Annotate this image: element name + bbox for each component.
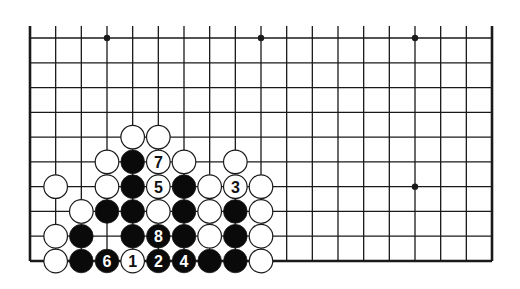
black-stone: 6 — [95, 249, 119, 273]
white-stone: 5 — [147, 175, 171, 199]
white-stone — [70, 200, 94, 224]
white-stone — [224, 150, 248, 174]
white-stone — [95, 150, 119, 174]
white-stone — [249, 200, 273, 224]
stones-layer: 75386124 — [44, 125, 273, 272]
white-stone — [44, 175, 68, 199]
white-stone — [249, 249, 273, 273]
white-stone — [44, 224, 68, 248]
black-stone: 8 — [147, 224, 171, 248]
black-stone — [70, 224, 94, 248]
black-stone — [172, 200, 196, 224]
move-number: 5 — [154, 179, 163, 196]
white-stone — [249, 175, 273, 199]
star-point — [412, 35, 418, 41]
black-stone — [121, 224, 145, 248]
move-number: 2 — [154, 253, 163, 270]
move-number: 3 — [231, 179, 240, 196]
move-number: 7 — [154, 154, 163, 171]
move-number: 8 — [154, 228, 163, 245]
white-stone — [198, 200, 222, 224]
white-stone — [121, 125, 145, 149]
white-stone — [147, 200, 171, 224]
white-stone — [249, 224, 273, 248]
move-number: 6 — [103, 253, 112, 270]
black-stone — [198, 249, 222, 273]
black-stone: 4 — [172, 249, 196, 273]
black-stone — [224, 249, 248, 273]
black-stone: 2 — [147, 249, 171, 273]
star-point — [412, 183, 418, 189]
white-stone — [95, 175, 119, 199]
move-number: 4 — [180, 253, 189, 270]
star-point — [104, 35, 110, 41]
black-stone — [70, 249, 94, 273]
white-stone — [147, 125, 171, 149]
white-stone — [198, 175, 222, 199]
white-stone — [198, 224, 222, 248]
move-number: 1 — [128, 253, 137, 270]
white-stone — [172, 150, 196, 174]
black-stone — [172, 224, 196, 248]
star-point — [258, 35, 264, 41]
black-stone — [95, 200, 119, 224]
white-stone — [44, 249, 68, 273]
black-stone — [172, 175, 196, 199]
white-stone: 3 — [224, 175, 248, 199]
black-stone — [224, 200, 248, 224]
go-board: 75386124 — [0, 0, 520, 289]
white-stone: 7 — [147, 150, 171, 174]
black-stone — [121, 150, 145, 174]
black-stone — [121, 200, 145, 224]
white-stone: 1 — [121, 249, 145, 273]
black-stone — [224, 224, 248, 248]
black-stone — [121, 175, 145, 199]
